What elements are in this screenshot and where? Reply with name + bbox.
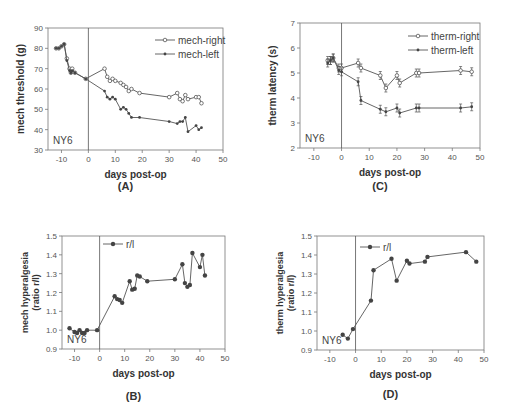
data-point [109, 98, 112, 101]
data-point [114, 98, 117, 101]
data-point [198, 265, 202, 269]
data-point [396, 107, 399, 110]
y-tick-label: 60 [34, 85, 43, 94]
data-point [398, 81, 402, 85]
y-tick-label: 1.2 [301, 289, 313, 298]
legend-marker [164, 53, 167, 56]
y-tick-label: 7 [291, 19, 296, 28]
data-point [360, 99, 363, 102]
data-point [184, 116, 187, 119]
data-point [63, 43, 66, 46]
data-point [84, 77, 87, 80]
data-point [197, 128, 200, 131]
subject-annotation: NY6 [53, 135, 73, 146]
data-point [138, 116, 141, 119]
y-axis-title: therm hyperalgesia [275, 251, 285, 335]
data-point [384, 110, 387, 113]
data-point [389, 257, 393, 261]
x-tick-label: -10 [56, 155, 68, 164]
y-tick-label: 2 [291, 144, 296, 153]
data-point [85, 328, 89, 332]
x-tick-label: 20 [145, 354, 154, 363]
data-point [181, 120, 184, 123]
data-point [168, 120, 171, 123]
data-point [200, 253, 204, 257]
data-point [188, 283, 192, 287]
x-tick-label: 40 [454, 355, 463, 364]
legend-entry: therm-left [408, 45, 473, 56]
data-point [418, 107, 421, 110]
y-tick-label: 1.5 [46, 232, 58, 241]
data-point [340, 70, 343, 73]
data-point [111, 96, 114, 99]
x-tick-label: 0 [86, 155, 91, 164]
data-point [57, 47, 60, 50]
legend-label: therm-left [431, 45, 473, 56]
legend-entry: mech-right [155, 35, 225, 46]
y-tick-label: 1.1 [301, 308, 313, 317]
data-point [173, 277, 177, 281]
x-tick-label: 30 [420, 153, 429, 162]
plot-frame [300, 23, 480, 148]
data-point [337, 69, 340, 72]
x-axis-title: days post-op [369, 369, 431, 380]
legend-label: r/l [126, 239, 134, 250]
data-point [417, 71, 421, 75]
data-point [180, 262, 184, 266]
x-tick-label: 10 [377, 355, 386, 364]
subject-annotation: NY6 [322, 335, 342, 346]
data-point [459, 69, 463, 73]
data-point [120, 301, 124, 305]
data-point [326, 62, 329, 65]
y-tick-label: 40 [34, 126, 43, 135]
y-tick-label: 1.2 [46, 289, 58, 298]
data-point [183, 281, 187, 285]
legend-marker [417, 49, 420, 52]
data-point [369, 298, 373, 302]
data-point [187, 130, 190, 133]
y-tick-label: 70 [34, 65, 43, 74]
data-point [119, 108, 122, 111]
x-tick-label: 10 [111, 155, 120, 164]
data-point [195, 124, 198, 127]
x-tick-label: 50 [480, 355, 489, 364]
y-tick-label: 50 [34, 105, 43, 114]
data-point [464, 250, 468, 254]
data-point [127, 112, 130, 115]
y-tick-label: 1.3 [301, 270, 313, 279]
chart-panel-a: 30405060708090-1001020304050days post-op… [15, 24, 228, 192]
data-point [329, 59, 332, 62]
x-tick-label: 40 [192, 155, 201, 164]
data-point [340, 333, 344, 337]
data-point [356, 61, 360, 65]
data-point [423, 259, 427, 263]
legend-label: mech-right [178, 35, 225, 46]
data-point [114, 79, 118, 83]
data-point [384, 86, 388, 90]
data-point [145, 279, 149, 283]
panel-label: (D) [383, 388, 399, 400]
x-tick-label: 30 [165, 155, 174, 164]
y-tick-label: 1.1 [46, 307, 58, 316]
series-line [70, 253, 205, 333]
data-point [470, 70, 474, 74]
data-point [55, 47, 58, 50]
chart-panel-c: 234567-1001020304050days post-optherm la… [267, 19, 485, 192]
x-tick-label: 10 [365, 153, 374, 162]
series-r-l [67, 251, 207, 335]
data-point [65, 59, 68, 62]
x-tick-label: 20 [392, 153, 401, 162]
data-point [103, 90, 106, 93]
data-point [105, 75, 109, 79]
data-point [133, 287, 137, 291]
data-point [200, 126, 203, 129]
data-point [184, 93, 188, 97]
panel-label: (C) [372, 180, 388, 192]
data-point [71, 69, 74, 72]
x-tick-label: 50 [476, 153, 485, 162]
legend-entry: r/l [103, 239, 134, 250]
y-tick-label: 1.0 [46, 326, 58, 335]
subject-annotation: NY6 [305, 133, 325, 144]
y-tick-label: 3 [291, 119, 296, 128]
legend-label: mech-left [178, 49, 219, 60]
